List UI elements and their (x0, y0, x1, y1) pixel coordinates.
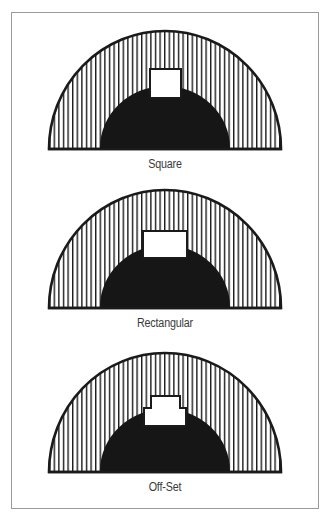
label-offset: Off-Set (23, 480, 307, 494)
figure-diagram (0, 0, 330, 525)
panel-rectangular (48, 190, 282, 308)
panel-offset (48, 353, 282, 472)
panel-square (48, 31, 282, 149)
rectangular-opening (143, 231, 187, 258)
label-rectangular: Rectangular (23, 316, 307, 330)
square-opening (150, 69, 181, 98)
offset-opening (144, 396, 186, 426)
label-square: Square (23, 157, 307, 171)
